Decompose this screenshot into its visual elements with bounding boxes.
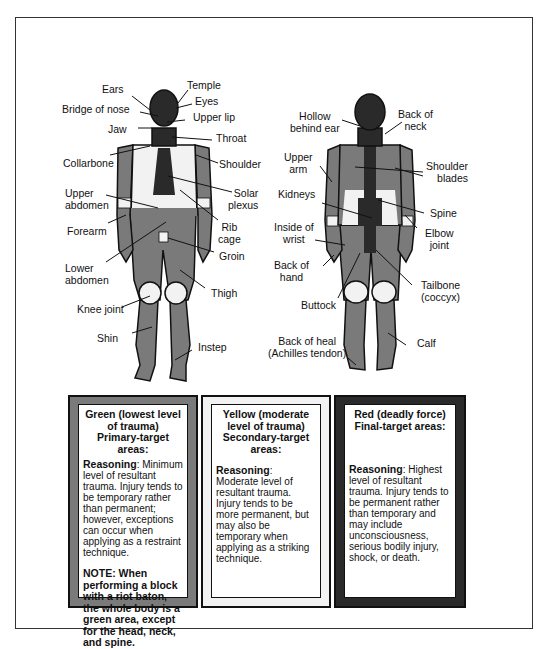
label-shoulder-blades: Shoulder blades [426, 160, 468, 184]
green-subheading: Primary-target areas: [83, 432, 183, 455]
label-back-of-heal: Back of heal (Achilles tendon) [268, 335, 346, 359]
green-note: NOTE: When performing a block with a rio… [83, 568, 183, 649]
label-upper-lip: Upper lip [193, 111, 235, 123]
label-temple: Temple [187, 79, 221, 91]
yellow-reasoning: Reasoning: Moderate level of resultant t… [216, 465, 316, 564]
yellow-heading: Yellow (moderate level of trauma) [216, 409, 316, 432]
legend-box-red: Red (deadly force) Final-target areas: R… [334, 395, 466, 608]
label-hollow-behind-ear: Hollow behind ear [290, 110, 340, 134]
yellow-subheading: Secondary-target areas: [216, 432, 316, 455]
label-lower-abdomen: Lower abdomen [65, 262, 109, 286]
label-spine: Spine [430, 207, 457, 219]
green-reasoning: Reasoning: Minimum level of resultant tr… [83, 459, 183, 558]
label-rib-cage: Rib cage [218, 221, 241, 245]
label-buttock: Buttock [301, 299, 336, 311]
green-heading: Green (lowest level of trauma) [83, 409, 183, 432]
label-upper-arm: Upper arm [284, 151, 313, 175]
red-heading: Red (deadly force) [349, 409, 451, 421]
red-reasoning: Reasoning: Highest level of resultant tr… [349, 464, 451, 563]
label-eyes: Eyes [195, 95, 218, 107]
label-shin: Shin [97, 332, 118, 344]
legend-box-yellow: Yellow (moderate level of trauma) Second… [201, 395, 331, 608]
label-shoulder: Shoulder [219, 158, 261, 170]
label-ears: Ears [102, 83, 124, 95]
label-forearm: Forearm [67, 225, 107, 237]
label-kidneys: Kidneys [278, 188, 315, 200]
legend-box-green: Green (lowest level of trauma) Primary-t… [68, 395, 198, 608]
label-upper-abdomen: Upper abdomen [65, 187, 109, 211]
label-back-of-neck: Back of neck [398, 108, 433, 132]
label-groin: Groin [219, 250, 245, 262]
label-thigh: Thigh [211, 287, 237, 299]
label-collarbone: Collarbone [63, 157, 114, 169]
label-throat: Throat [216, 132, 246, 144]
label-instep: Instep [198, 341, 227, 353]
label-jaw: Jaw [108, 123, 127, 135]
front-body-figure [117, 90, 212, 381]
red-subheading: Final-target areas: [349, 421, 451, 433]
label-knee-joint: Knee joint [77, 303, 124, 315]
label-inside-of-wrist: Inside of wrist [274, 221, 314, 245]
back-body-figure [325, 94, 415, 370]
label-elbow-joint: Elbow joint [425, 227, 454, 251]
label-bridge-of-nose: Bridge of nose [62, 103, 130, 115]
label-tailbone: Tailbone (coccyx) [421, 279, 460, 303]
label-calf: Calf [417, 337, 436, 349]
label-back-of-hand: Back of hand [274, 259, 309, 283]
label-solar-plexus: Solar plexus [228, 187, 258, 211]
